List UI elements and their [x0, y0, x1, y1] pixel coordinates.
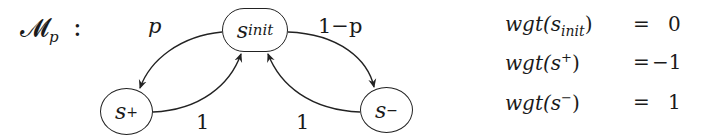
edge-label-plus-return: 1 [196, 110, 209, 134]
node-s-plus: s+ [100, 88, 153, 135]
weight-close: ) [572, 51, 580, 75]
edge-label-1-minus-p: 1−p [318, 14, 362, 38]
edge-label-minus-return: 1 [296, 110, 309, 134]
weight-eq-init: = [633, 12, 650, 36]
weight-value-init: 0 [668, 12, 681, 36]
weight-sup: − [561, 90, 572, 105]
node-label: s [237, 18, 248, 43]
weight-state: s [551, 51, 561, 75]
weight-close: ) [585, 12, 593, 36]
title-colon: : [73, 12, 82, 42]
title-symbol: 𝓜 [20, 12, 49, 42]
edge-plus-to-init [153, 54, 241, 112]
weight-row-minus: wgt(s−) [505, 90, 580, 115]
node-label: s [375, 98, 386, 123]
weight-value-minus: 1 [668, 90, 681, 114]
edge-init-to-minus [288, 32, 374, 87]
weight-eq-plus: = [633, 50, 650, 74]
weight-row-init: wgt(sinit) [505, 12, 592, 39]
edge-label-p: p [148, 14, 161, 38]
weight-state: s [551, 91, 561, 115]
weight-fn: wgt( [505, 91, 551, 115]
weight-sup: + [561, 50, 572, 65]
edge-init-to-plus [140, 32, 222, 88]
weight-close: ) [572, 91, 580, 115]
weight-fn: wgt( [505, 51, 551, 75]
node-superscript: − [386, 102, 398, 118]
model-title: 𝓜p : [20, 12, 82, 46]
node-s-minus: s− [360, 87, 413, 133]
edge-minus-to-init [268, 54, 360, 112]
node-superscript: + [126, 104, 138, 120]
weight-row-plus: wgt(s+) [505, 50, 580, 75]
weight-eq-minus: = [633, 90, 650, 114]
weight-state: s [551, 12, 561, 36]
node-s-init: sinit [222, 8, 288, 52]
title-subscript: p [49, 28, 59, 46]
weight-sub: init [561, 23, 585, 39]
node-subscript: init [248, 21, 273, 39]
node-label: s [115, 99, 126, 124]
weight-fn: wgt( [505, 12, 551, 36]
weight-value-plus: −1 [652, 50, 681, 74]
